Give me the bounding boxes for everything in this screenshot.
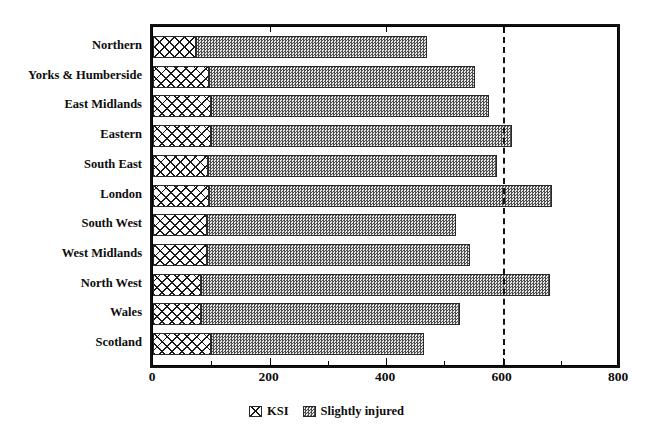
bar-segment-slightly-injured xyxy=(201,274,550,296)
x-axis-tick-label: 0 xyxy=(149,369,156,385)
legend-label: KSI xyxy=(267,404,289,419)
x-axis-tick-label: 600 xyxy=(491,369,511,385)
bar-row xyxy=(153,95,489,117)
dither-swatch-icon xyxy=(303,406,316,417)
bar-row xyxy=(153,333,424,355)
category-label: South West xyxy=(81,217,142,230)
bar-segment-ksi xyxy=(153,185,209,207)
bar-segment-ksi xyxy=(153,125,211,147)
category-label: South East xyxy=(84,158,142,171)
category-label: North West xyxy=(81,277,142,290)
bar-row xyxy=(153,36,427,58)
bar-row xyxy=(153,66,475,88)
category-label: Yorks & Humberside xyxy=(28,69,142,82)
reference-line xyxy=(503,27,505,365)
bar-segment-ksi xyxy=(153,333,211,355)
x-axis-major-tick xyxy=(270,358,271,365)
chart-legend: KSI Slightly injured xyxy=(0,404,653,419)
stacked-bar-chart: Northern Yorks & Humberside East Midland… xyxy=(0,0,653,443)
bar-segment-ksi xyxy=(153,303,201,325)
bar-segment-ksi xyxy=(153,36,196,58)
bar-segment-ksi xyxy=(153,66,209,88)
x-axis-minor-tick xyxy=(211,361,212,365)
legend-item-slightly-injured: Slightly injured xyxy=(303,404,404,419)
bar-row xyxy=(153,185,552,207)
bar-row xyxy=(153,274,550,296)
x-axis-minor-tick xyxy=(328,361,329,365)
x-axis-minor-tick xyxy=(444,361,445,365)
x-axis-top-tick xyxy=(270,27,271,32)
bar-segment-slightly-injured xyxy=(211,333,424,355)
legend-label: Slightly injured xyxy=(321,404,404,419)
bar-segment-slightly-injured xyxy=(196,36,427,58)
category-label: Scotland xyxy=(95,336,142,349)
category-label: Northern xyxy=(92,39,142,52)
category-label: West Midlands xyxy=(62,247,142,260)
bar-segment-slightly-injured xyxy=(207,244,470,266)
bar-segment-slightly-injured xyxy=(208,155,496,177)
x-axis-tick-labels: 0200400600800 xyxy=(152,369,618,391)
bar-segment-ksi xyxy=(153,95,211,117)
bar-segment-slightly-injured xyxy=(209,185,552,207)
x-axis-major-tick xyxy=(503,358,504,365)
bar-segment-ksi xyxy=(153,214,207,236)
x-axis-tick-label: 200 xyxy=(258,369,278,385)
bar-row xyxy=(153,244,470,266)
category-label: Eastern xyxy=(100,128,142,141)
bar-segment-slightly-injured xyxy=(211,95,489,117)
bar-row xyxy=(153,155,497,177)
bar-segment-ksi xyxy=(153,274,201,296)
plot-area xyxy=(152,26,618,366)
x-axis-minor-tick xyxy=(561,361,562,365)
category-axis-labels: Northern Yorks & Humberside East Midland… xyxy=(0,28,148,366)
category-label: East Midlands xyxy=(65,98,142,111)
legend-item-ksi: KSI xyxy=(249,404,289,419)
x-axis-tick-label: 800 xyxy=(608,369,628,385)
x-axis-top-tick xyxy=(503,27,504,32)
x-axis-top-tick xyxy=(386,27,387,32)
category-label: London xyxy=(100,188,142,201)
bar-row xyxy=(153,125,512,147)
x-axis-major-tick xyxy=(386,358,387,365)
category-label: Wales xyxy=(110,306,142,319)
x-axis-tick-label: 400 xyxy=(375,369,395,385)
bar-row xyxy=(153,303,460,325)
bar-row xyxy=(153,214,456,236)
bar-segment-slightly-injured xyxy=(209,66,475,88)
plot-inner xyxy=(153,27,617,365)
bar-segment-ksi xyxy=(153,244,207,266)
cross-hatch-swatch-icon xyxy=(249,406,262,417)
bar-segment-slightly-injured xyxy=(211,125,512,147)
bar-segment-slightly-injured xyxy=(201,303,460,325)
bar-segment-ksi xyxy=(153,155,208,177)
bar-segment-slightly-injured xyxy=(207,214,456,236)
